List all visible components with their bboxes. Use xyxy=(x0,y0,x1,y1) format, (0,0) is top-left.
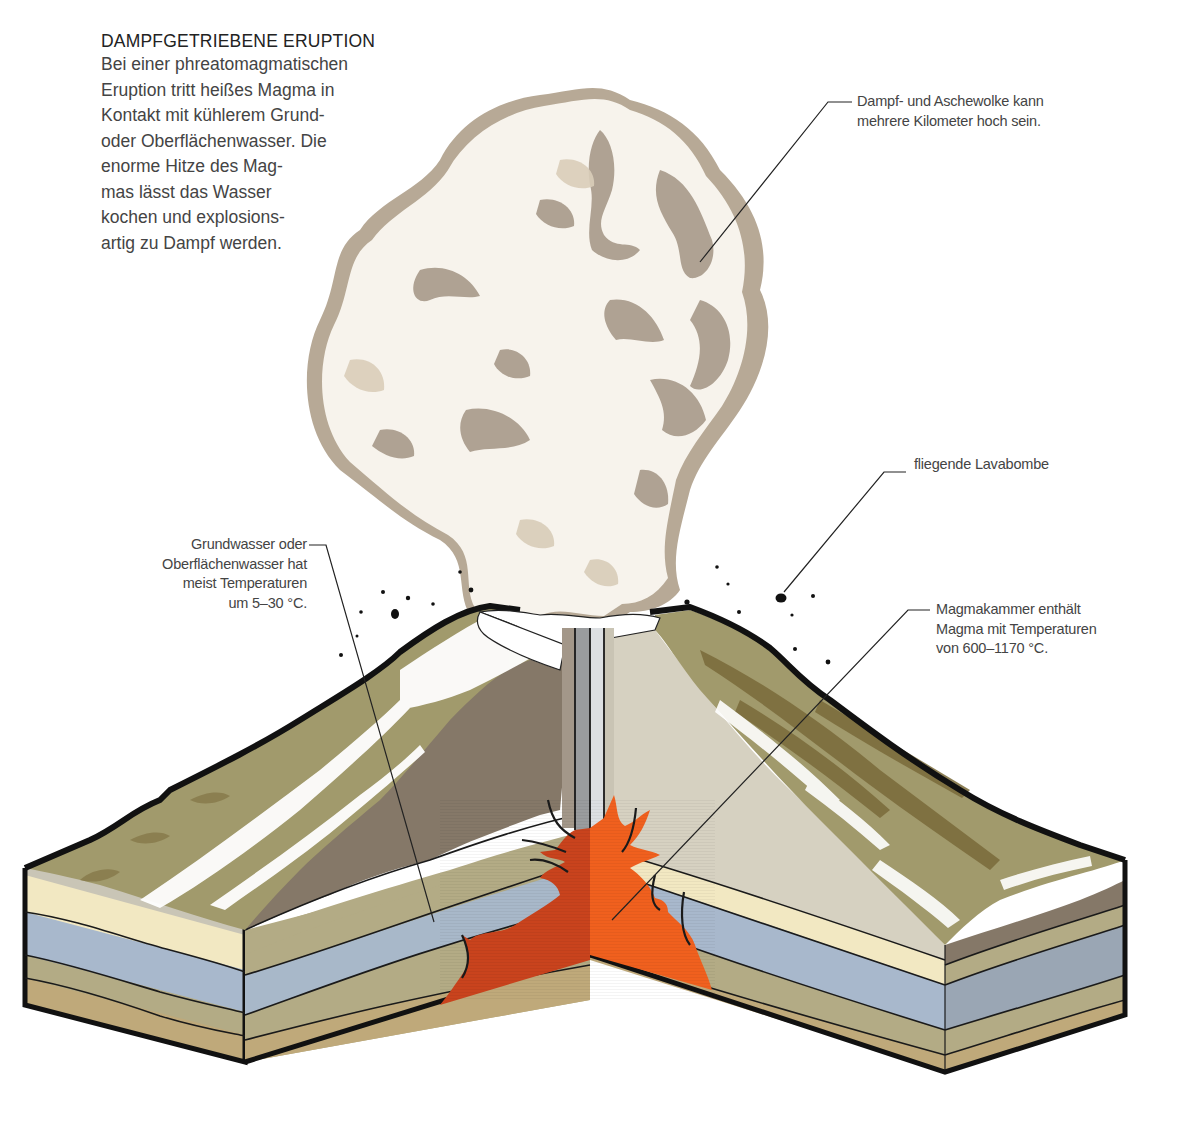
label-line: um 5–30 °C. xyxy=(162,594,307,614)
label-line: mehrere Kilometer hoch sein. xyxy=(857,112,1044,132)
label-ash-cloud: Dampf- und Aschewolke kann mehrere Kilom… xyxy=(857,92,1044,131)
magma-chamber xyxy=(440,795,715,1005)
intro-line: kochen und explosions- xyxy=(101,205,441,231)
label-magma-chamber: Magmakammer enthält Magma mit Temperatur… xyxy=(936,600,1097,659)
label-line: Grundwasser oder xyxy=(162,535,307,555)
label-lava-bomb: fliegende Lavabombe xyxy=(914,455,1049,475)
label-line: fliegende Lavabombe xyxy=(914,455,1049,475)
intro-line: mas lässt das Wasser xyxy=(101,180,441,206)
intro-line: Kontakt mit kühlerem Grund- xyxy=(101,103,441,129)
intro-line: oder Oberflächenwasser. Die xyxy=(101,129,441,155)
label-line: meist Temperaturen xyxy=(162,574,307,594)
intro-line: Eruption tritt heißes Magma in xyxy=(101,78,441,104)
label-line: Magmakammer enthält xyxy=(936,600,1097,620)
intro-line: enorme Hitze des Mag- xyxy=(101,154,441,180)
label-groundwater: Grundwasser oder Oberflächenwasser hat m… xyxy=(162,535,307,613)
diagram-title: DAMPFGETRIEBENE ERUPTION xyxy=(101,30,441,52)
label-line: Oberflächenwasser hat xyxy=(162,555,307,575)
label-line: Dampf- und Aschewolke kann xyxy=(857,92,1044,112)
flying-lava-bomb xyxy=(776,594,787,603)
intro-line: Bei einer phreatomagmatischen xyxy=(101,52,441,78)
intro-block: DAMPFGETRIEBENE ERUPTION Bei einer phrea… xyxy=(101,30,441,256)
label-line: Magma mit Temperaturen xyxy=(936,620,1097,640)
label-line: von 600–1170 °C. xyxy=(936,639,1097,659)
intro-line: artig zu Dampf werden. xyxy=(101,231,441,257)
